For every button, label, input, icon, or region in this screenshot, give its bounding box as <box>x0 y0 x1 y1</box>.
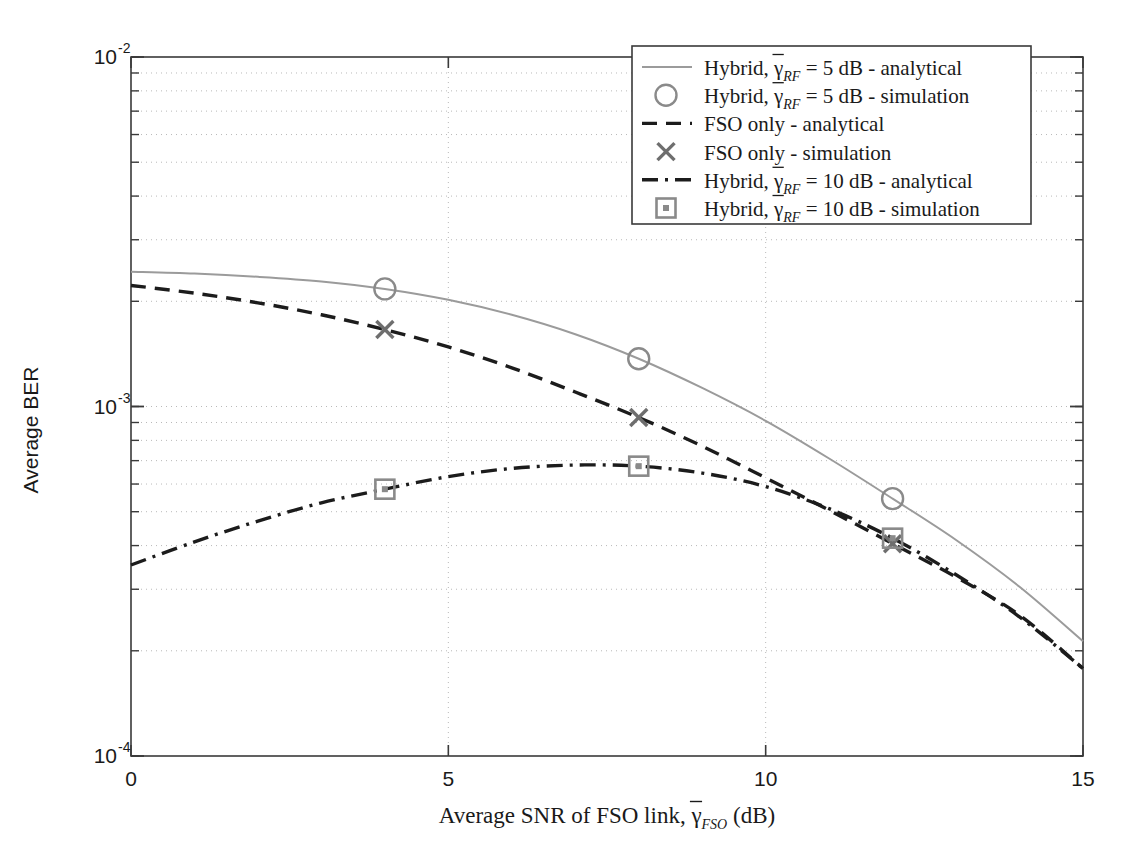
x-axis-title-tail: (dB) <box>727 803 775 828</box>
y-tick-label: 10 <box>94 45 117 68</box>
gamma-bar-symbol: γ <box>690 803 701 828</box>
gamma-bar-symbol: γ <box>773 197 783 221</box>
gamma-bar-symbol: γ <box>773 84 783 108</box>
x-axis-title-main: Average SNR of FSO link, <box>439 803 692 828</box>
legend-label: Hybrid, γRF = 10 dB - analytical <box>704 169 973 197</box>
y-tick-exponent: -2 <box>118 40 131 56</box>
legend: Hybrid, γRF = 5 dB - analyticalHybrid, γ… <box>632 46 1031 225</box>
legend-label: FSO only - analytical <box>704 112 884 136</box>
y-tick-exponent: -3 <box>118 390 131 406</box>
legend-label: Hybrid, γRF = 5 dB - simulation <box>704 84 970 112</box>
x-tick-label: 0 <box>125 767 137 790</box>
gamma-bar-symbol: γ <box>773 56 783 80</box>
x-tick-label: 15 <box>1071 767 1094 790</box>
legend-item-hybrid-10db-simulation[interactable]: Hybrid, γRF = 10 dB - simulation <box>657 196 981 226</box>
y-tick-label: 10 <box>94 395 117 418</box>
gamma-bar-symbol: γ <box>773 169 783 193</box>
legend-label: FSO only - simulation <box>704 141 892 165</box>
y-axis-title-text: Average BER <box>19 367 42 494</box>
figure-canvas: 10-410-310-2051015 Average BER Average S… <box>0 0 1133 857</box>
x-tick-label: 5 <box>442 767 454 790</box>
x-tick-label: 10 <box>754 767 777 790</box>
y-axis-title: Average BER <box>19 367 42 494</box>
y-tick-label: 10 <box>94 744 117 767</box>
legend-label: Hybrid, γRF = 5 dB - analytical <box>704 56 962 84</box>
x-axis-title-subscript: FSO <box>701 817 728 832</box>
y-tick-exponent: -4 <box>118 739 131 755</box>
legend-label: Hybrid, γRF = 10 dB - simulation <box>704 197 980 225</box>
ber-vs-snr-chart: 10-410-310-2051015 Average BER Average S… <box>0 0 1133 857</box>
